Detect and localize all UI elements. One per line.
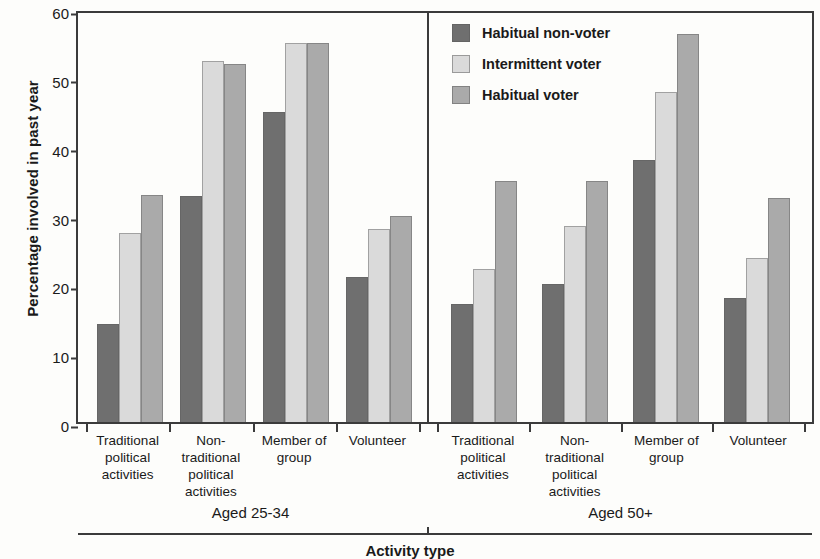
age-band-label-right: Aged 50+ xyxy=(427,504,814,521)
y-tick-mark xyxy=(71,82,78,84)
bar[interactable] xyxy=(224,64,246,422)
legend-swatch-icon xyxy=(452,24,470,42)
legend-label: Intermittent voter xyxy=(482,56,601,72)
grouped-bar-chart: Percentage involved in past year 0102030… xyxy=(0,0,820,559)
bar[interactable] xyxy=(746,258,768,422)
bar[interactable] xyxy=(390,216,412,423)
category-labels-right: Traditional political activitiesNon- tra… xyxy=(427,432,814,500)
x-tick-mark xyxy=(419,424,421,432)
y-axis-title: Percentage involved in past year xyxy=(24,19,41,379)
x-tick-mark xyxy=(529,424,531,432)
bar[interactable] xyxy=(180,196,202,422)
legend-item[interactable]: Intermittent voter xyxy=(452,55,610,73)
y-tick-60: 60 xyxy=(52,5,78,22)
x-tick-mark xyxy=(437,424,439,432)
legend-item[interactable]: Habitual non-voter xyxy=(452,24,610,42)
legend-swatch-icon xyxy=(452,55,470,73)
x-axis-tick-marks xyxy=(76,424,814,432)
bar-group xyxy=(711,13,802,422)
x-axis-title: Activity type xyxy=(0,542,820,559)
x-tick-mark xyxy=(712,424,714,432)
bar[interactable] xyxy=(97,324,119,422)
y-tick-mark xyxy=(71,220,78,222)
bar[interactable] xyxy=(346,277,368,422)
bar[interactable] xyxy=(473,269,495,422)
bar-group xyxy=(621,13,712,422)
age-band-label-left: Aged 25-34 xyxy=(76,504,425,521)
bar-group xyxy=(88,13,171,422)
bottom-axis-center-tick xyxy=(427,527,429,534)
y-tick-mark xyxy=(71,13,78,15)
bar-group xyxy=(171,13,254,422)
bar[interactable] xyxy=(307,43,329,422)
bar[interactable] xyxy=(141,195,163,422)
x-tick-mark xyxy=(169,424,171,432)
legend: Habitual non-voterIntermittent voterHabi… xyxy=(452,24,610,104)
x-tick-mark xyxy=(336,424,338,432)
bar[interactable] xyxy=(655,92,677,422)
bar[interactable] xyxy=(724,298,746,422)
bar[interactable] xyxy=(451,304,473,422)
bar[interactable] xyxy=(586,181,608,422)
legend-label: Habitual non-voter xyxy=(482,25,610,41)
bar[interactable] xyxy=(263,112,285,422)
x-tick-mark xyxy=(621,424,623,432)
legend-item[interactable]: Habitual voter xyxy=(452,86,610,104)
bar[interactable] xyxy=(495,181,517,422)
legend-label: Habitual voter xyxy=(482,87,579,103)
bar[interactable] xyxy=(633,160,655,422)
category-label: Volunteer xyxy=(712,432,804,500)
bar[interactable] xyxy=(542,284,564,422)
category-label: Non- traditional political activities xyxy=(169,432,252,500)
bar-group xyxy=(255,13,338,422)
category-label: Member of group xyxy=(253,432,336,500)
legend-swatch-icon xyxy=(452,86,470,104)
y-tick-20: 20 xyxy=(52,280,78,297)
bar[interactable] xyxy=(202,61,224,422)
bar[interactable] xyxy=(677,34,699,422)
bottom-axis-rule xyxy=(78,533,812,535)
category-labels-left: Traditional political activitiesNon- tra… xyxy=(76,432,425,500)
y-tick-mark xyxy=(71,151,78,153)
y-tick-10: 10 xyxy=(52,349,78,366)
panel-aged-25-34 xyxy=(78,13,427,422)
x-tick-mark xyxy=(86,424,88,432)
y-tick-40: 40 xyxy=(52,142,78,159)
category-label: Member of group xyxy=(621,432,713,500)
bar-group xyxy=(338,13,421,422)
bar[interactable] xyxy=(768,198,790,422)
bar[interactable] xyxy=(119,233,141,422)
category-label: Traditional political activities xyxy=(86,432,169,500)
y-tick-mark xyxy=(71,357,78,359)
bar[interactable] xyxy=(368,229,390,422)
x-tick-mark xyxy=(253,424,255,432)
bar[interactable] xyxy=(564,226,586,422)
y-tick-30: 30 xyxy=(52,211,78,228)
x-tick-mark xyxy=(804,424,806,432)
bar[interactable] xyxy=(285,43,307,422)
y-tick-mark xyxy=(71,288,78,290)
y-tick-50: 50 xyxy=(52,73,78,90)
category-label: Non- traditional political activities xyxy=(529,432,621,500)
plot-area: 0102030405060 xyxy=(76,11,814,424)
category-label: Traditional political activities xyxy=(437,432,529,500)
category-label: Volunteer xyxy=(336,432,419,500)
